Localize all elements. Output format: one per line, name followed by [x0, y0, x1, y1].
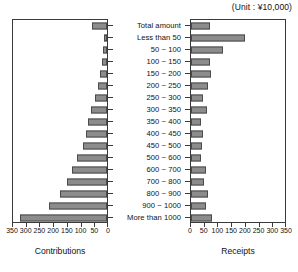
category-tick — [185, 73, 190, 74]
bar-contributions — [86, 131, 107, 138]
contributions-bar-row — [13, 116, 107, 128]
contributions-bars — [13, 20, 107, 222]
category-label: 500 ~ 600 — [113, 151, 181, 163]
x-axis-tick-label: 50 — [90, 227, 98, 234]
x-axis-tick — [94, 223, 95, 227]
bar-contributions — [91, 107, 107, 114]
bar-contributions — [67, 179, 107, 186]
bar-contributions — [98, 83, 107, 90]
receipts-bar-row — [191, 164, 285, 176]
x-axis-tick-label: 0 — [188, 227, 192, 234]
contributions-bar-row — [13, 92, 107, 104]
bar-contributions — [100, 71, 107, 78]
contributions-bar-row — [13, 200, 107, 212]
bar-receipts — [191, 179, 204, 186]
category-label: 450 ~ 500 — [113, 139, 181, 151]
receipts-x-tick-labels: 050100150200250300350 — [186, 227, 298, 238]
category-tick — [185, 181, 190, 182]
receipts-bar-row — [191, 200, 285, 212]
x-axis-tick — [204, 223, 205, 227]
contributions-bar-row — [13, 56, 107, 68]
contributions-bar-row — [13, 68, 107, 80]
receipts-axis-title: Receipts — [221, 246, 254, 256]
x-axis-tick — [67, 223, 68, 227]
x-axis-tick-label: 350 — [6, 227, 18, 234]
bar-contributions — [103, 47, 107, 54]
receipts-bar-row — [191, 176, 285, 188]
bar-receipts — [191, 47, 223, 54]
bar-receipts — [191, 83, 208, 90]
category-tick — [185, 109, 190, 110]
category-label: 800 ~ 900 — [113, 187, 181, 199]
bar-receipts — [191, 95, 203, 102]
receipts-bar-row — [191, 152, 285, 164]
receipts-bars — [191, 20, 285, 222]
receipts-bar-row — [191, 80, 285, 92]
category-tick — [185, 145, 190, 146]
receipts-bar-row — [191, 56, 285, 68]
x-axis-tick — [81, 223, 82, 227]
category-label: 400 ~ 450 — [113, 127, 181, 139]
receipts-bar-row — [191, 92, 285, 104]
contributions-bar-row — [13, 80, 107, 92]
receipts-bar-row — [191, 68, 285, 80]
contributions-bar-row — [13, 152, 107, 164]
x-axis-tick-label: 100 — [75, 227, 87, 234]
contributions-plot-frame — [12, 19, 108, 223]
category-tick — [185, 133, 190, 134]
bar-contributions — [88, 119, 107, 126]
contributions-bar-row — [13, 44, 107, 56]
bar-contributions — [102, 59, 107, 66]
x-axis-tick — [53, 223, 54, 227]
contributions-bar-row — [13, 128, 107, 140]
x-axis-tick — [285, 223, 286, 227]
category-tick — [185, 85, 190, 86]
bar-receipts — [191, 23, 210, 30]
category-tick — [185, 61, 190, 62]
category-tick — [185, 217, 190, 218]
x-axis-tick-label: 350 — [280, 227, 292, 234]
contributions-bar-row — [13, 104, 107, 116]
bar-receipts — [191, 191, 208, 198]
bar-contributions — [20, 215, 107, 222]
category-tick — [185, 37, 190, 38]
x-axis-tick — [217, 223, 218, 227]
x-axis-tick — [39, 223, 40, 227]
x-axis-tick — [245, 223, 246, 227]
category-label: 250 ~ 300 — [113, 91, 181, 103]
x-axis-tick-label: 0 — [106, 227, 110, 234]
category-label: 150 ~ 200 — [113, 67, 181, 79]
contributions-x-tick-labels: 350300250200150100500 — [0, 227, 120, 238]
bar-receipts — [191, 107, 207, 114]
bar-contributions — [77, 155, 107, 162]
unit-note: (Unit : ¥10,000) — [232, 2, 292, 12]
receipts-bar-row — [191, 188, 285, 200]
category-label: 600 ~ 700 — [113, 163, 181, 175]
x-axis-tick-label: 50 — [200, 227, 208, 234]
bar-receipts — [191, 215, 212, 222]
category-label: 200 ~ 250 — [113, 79, 181, 91]
receipts-bar-row — [191, 140, 285, 152]
bar-contributions — [95, 95, 107, 102]
bar-contributions — [72, 167, 107, 174]
receipts-category-ticks — [184, 19, 190, 223]
category-label-column: Total amountLess than 5050 ~ 100100 ~ 15… — [113, 19, 181, 223]
contributions-bar-row — [13, 188, 107, 200]
category-label: Less than 50 — [113, 31, 181, 43]
bar-contributions — [83, 143, 107, 150]
x-axis-tick-label: 250 — [34, 227, 46, 234]
receipts-bar-row — [191, 104, 285, 116]
bar-receipts — [191, 131, 203, 138]
receipts-bar-row — [191, 32, 285, 44]
bar-contributions — [92, 23, 107, 30]
x-axis-tick-label: 100 — [212, 227, 224, 234]
x-axis-tick-label: 250 — [253, 227, 265, 234]
bar-contributions — [104, 35, 107, 42]
category-tick — [185, 97, 190, 98]
category-tick — [185, 205, 190, 206]
receipts-bar-row — [191, 44, 285, 56]
contributions-bar-row — [13, 32, 107, 44]
receipts-bar-row — [191, 128, 285, 140]
contributions-axis-title: Contributions — [35, 246, 86, 256]
category-label: 700 ~ 800 — [113, 175, 181, 187]
